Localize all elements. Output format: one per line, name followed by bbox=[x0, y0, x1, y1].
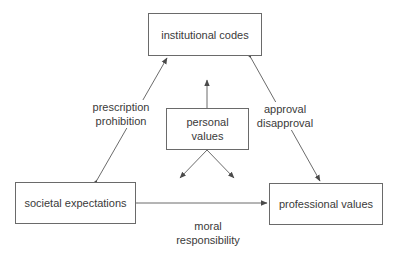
node-personal-values: personal values bbox=[166, 108, 249, 150]
node-personal-values-line1: personal bbox=[186, 115, 228, 129]
node-societal-expectations-label: societal expectations bbox=[24, 196, 126, 210]
edge-label-approval-disapproval: approval disapproval bbox=[252, 102, 318, 130]
node-professional-values: professional values bbox=[269, 183, 383, 225]
edge-label-bottom-line2: responsibility bbox=[168, 233, 248, 247]
edge-label-left-line2: prohibition bbox=[88, 114, 154, 128]
node-societal-expectations: societal expectations bbox=[15, 182, 136, 224]
edge-label-right-line2: disapproval bbox=[252, 116, 318, 130]
edge-label-left-line1: prescription bbox=[88, 100, 154, 114]
node-institutional-codes: institutional codes bbox=[148, 13, 262, 56]
node-institutional-codes-label: institutional codes bbox=[161, 28, 248, 42]
arrow-personal-down-right bbox=[207, 150, 234, 178]
arrow-personal-down-left bbox=[180, 150, 207, 178]
edge-label-bottom-line1: moral bbox=[168, 219, 248, 233]
edge-label-moral-responsibility: moral responsibility bbox=[168, 219, 248, 247]
edge-label-prescription-prohibition: prescription prohibition bbox=[88, 100, 154, 128]
node-professional-values-label: professional values bbox=[279, 197, 373, 211]
diagram-canvas: institutional codes personal values soci… bbox=[0, 0, 400, 255]
edge-label-right-line1: approval bbox=[252, 102, 318, 116]
node-personal-values-line2: values bbox=[192, 129, 224, 143]
